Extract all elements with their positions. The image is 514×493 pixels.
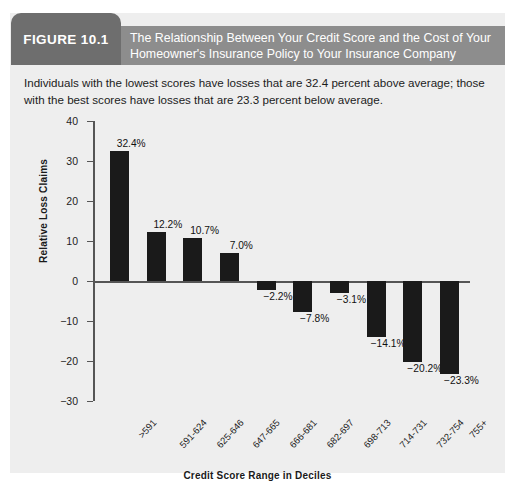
bar-value-label: 7.0% bbox=[230, 240, 253, 251]
figure-number-label: FIGURE 10.1 bbox=[23, 32, 108, 47]
x-axis-tick-label: 647-665 bbox=[251, 417, 283, 450]
bar-value-label: −7.8% bbox=[300, 313, 329, 324]
bar-value-label: 10.7% bbox=[190, 225, 219, 236]
x-axis-title: Credit Score Range in Deciles bbox=[10, 470, 505, 481]
y-axis-tick: −30 bbox=[87, 401, 93, 402]
bar-value-label: −14.1% bbox=[371, 338, 406, 349]
bar bbox=[110, 151, 129, 281]
bar-value-label: −3.1% bbox=[337, 294, 366, 305]
bar-value-label: −20.2% bbox=[407, 363, 442, 374]
figure-title-band: The Relationship Between Your Credit Sco… bbox=[121, 26, 505, 65]
x-axis-tick-label: 682-697 bbox=[324, 417, 356, 450]
y-axis-tick-label: 10 bbox=[66, 235, 78, 247]
bar-value-label: −23.3% bbox=[444, 375, 479, 386]
y-axis-tick-label: 30 bbox=[66, 155, 78, 167]
y-axis-tick: 30 bbox=[87, 161, 93, 162]
x-axis-tick-label: 755+ bbox=[466, 417, 489, 440]
y-axis-tick: 40 bbox=[87, 121, 93, 122]
y-axis-tick: 20 bbox=[87, 201, 93, 202]
bar bbox=[220, 253, 239, 281]
figure-header: FIGURE 10.1 The Relationship Between You… bbox=[10, 13, 505, 65]
bar-chart: Relative Loss Claims 403020100−10−20−30 … bbox=[10, 108, 505, 473]
y-axis-tick: −10 bbox=[87, 321, 93, 322]
bar bbox=[257, 281, 276, 290]
bar bbox=[183, 238, 202, 281]
y-axis-title: Relative Loss Claims bbox=[38, 159, 49, 263]
y-axis-tick-label: 0 bbox=[72, 275, 78, 287]
y-axis-line bbox=[93, 121, 95, 401]
y-axis-tick-label: −10 bbox=[60, 315, 78, 327]
x-axis-tick-label: 591-624 bbox=[177, 417, 209, 450]
y-axis-tick-label: 40 bbox=[66, 115, 78, 127]
bar-value-label: 12.2% bbox=[153, 219, 182, 230]
y-axis-tick-label: 20 bbox=[66, 195, 78, 207]
bar bbox=[147, 232, 166, 281]
bar bbox=[293, 281, 312, 312]
bar bbox=[403, 281, 422, 362]
y-axis-tick: 10 bbox=[87, 241, 93, 242]
bar bbox=[440, 281, 459, 374]
plot-area: 403020100−10−20−30 32.4%12.2%10.7%7.0%−2… bbox=[93, 121, 468, 401]
x-axis-tick-label: 698-713 bbox=[361, 417, 393, 450]
x-axis-tick-label: 666-681 bbox=[287, 417, 319, 450]
figure-panel: FIGURE 10.1 The Relationship Between You… bbox=[10, 13, 505, 473]
bar bbox=[330, 281, 349, 293]
figure-description: Individuals with the lowest scores have … bbox=[24, 75, 486, 108]
x-axis-tick-label: 714-731 bbox=[397, 417, 429, 450]
x-axis-tick-label: >591 bbox=[136, 417, 159, 440]
figure-title: The Relationship Between Your Credit Sco… bbox=[121, 30, 505, 62]
bar-value-label: 32.4% bbox=[117, 138, 146, 149]
bar bbox=[367, 281, 386, 337]
x-axis-tick-label: 625-646 bbox=[214, 417, 246, 450]
bar-value-label: −2.2% bbox=[263, 291, 292, 302]
figure-number-box: FIGURE 10.1 bbox=[11, 13, 121, 65]
y-axis-tick: −20 bbox=[87, 361, 93, 362]
x-axis-tick-label: 732-754 bbox=[434, 417, 466, 450]
y-axis-tick-label: −20 bbox=[60, 355, 78, 367]
y-axis-tick-label: −30 bbox=[60, 395, 78, 407]
